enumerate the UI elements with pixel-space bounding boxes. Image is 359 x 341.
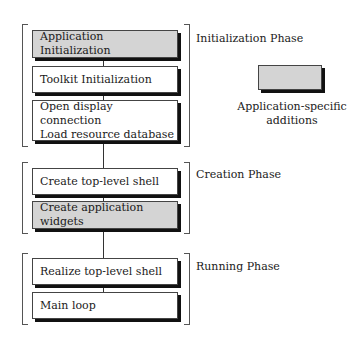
initialization-phase-bracket-left (22, 24, 28, 147)
creation-phase-bracket-left (22, 162, 28, 234)
step-create-application-widgets: Create application widgets (32, 201, 178, 229)
creation-phase-bracket-right (184, 162, 190, 234)
step-main-loop: Main loop (32, 292, 178, 319)
running-phase-bracket-right (184, 253, 190, 325)
step-label: Application Initialization (40, 30, 177, 58)
legend-line: additions (232, 114, 352, 128)
creation-phase-label: Creation Phase (196, 168, 281, 182)
step-realize-top-level-shell: Realize top-level shell (32, 258, 178, 285)
step-label: Create top-level shell (40, 175, 177, 189)
step-label: Main loop (40, 299, 177, 313)
step-label: Create application widgets (40, 201, 177, 229)
step-label: Realize top-level shell (40, 265, 177, 279)
step-label: Toolkit Initialization (40, 73, 177, 87)
step-label: Load resource database (40, 128, 177, 142)
step-create-top-level-shell: Create top-level shell (32, 168, 178, 195)
step-label: Open display connection (40, 100, 177, 128)
step-open-display-load-resources: Open display connection Load resource da… (32, 100, 178, 141)
initialization-phase-label: Initialization Phase (196, 32, 303, 46)
initialization-phase-bracket-right (184, 24, 190, 147)
step-toolkit-initialization: Toolkit Initialization (32, 66, 178, 93)
legend-label: Application-specific additions (232, 100, 352, 128)
legend-swatch-app-specific (258, 65, 322, 90)
running-phase-label: Running Phase (196, 260, 280, 274)
connector-line (103, 232, 104, 259)
connector-line (103, 144, 104, 169)
running-phase-bracket-left (22, 253, 28, 325)
legend-line: Application-specific (232, 100, 352, 114)
step-application-initialization: Application Initialization (32, 30, 178, 58)
